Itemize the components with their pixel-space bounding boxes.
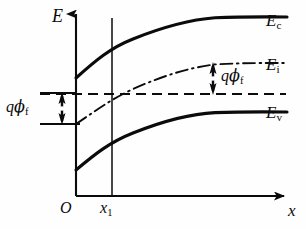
qphi-right-subscript: f [240, 75, 244, 86]
qphi-right-double-arrow [210, 62, 217, 95]
band-diagram-figure: E x O x1 Ec Ei Ev qϕf qϕf [0, 0, 306, 229]
qphi-right-symbol: ϕ [229, 66, 240, 85]
intrinsic-level-label: Ei [266, 56, 280, 73]
conduction-band-label: Ec [266, 12, 281, 29]
conduction-band-label-subscript: c [277, 19, 282, 31]
qphi-left-subscript: f [25, 106, 29, 117]
energy-axis-label: E [52, 7, 63, 25]
conduction-band-curve [76, 17, 287, 78]
position-axis-label: x [288, 202, 296, 219]
valence-band-label-base: E [266, 103, 276, 122]
qphi-left-prefix: q [6, 98, 14, 115]
qphi-left-symbol: ϕ [14, 97, 25, 116]
valence-band-label: Ev [266, 104, 282, 121]
intrinsic-level-label-subscript: i [277, 63, 280, 75]
valence-band-label-subscript: v [277, 111, 283, 123]
qphi-left-double-arrow [59, 92, 66, 125]
conduction-band-label-base: E [266, 11, 276, 30]
origin-label: O [60, 200, 72, 216]
qphi-right-label: qϕf [221, 68, 243, 84]
band-diagram-svg [0, 0, 306, 229]
x1-tick-label: x1 [100, 200, 112, 216]
valence-band-curve [76, 112, 287, 170]
qphi-left-label: qϕf [6, 99, 28, 115]
qphi-right-prefix: q [221, 67, 229, 84]
x1-tick-label-subscript: 1 [107, 207, 112, 218]
intrinsic-level-label-base: E [266, 55, 276, 74]
